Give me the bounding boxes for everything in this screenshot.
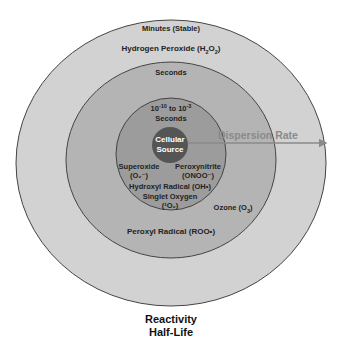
peroxynitrite-label: Peroxynitrite [175, 162, 221, 171]
core-label-line2: Source [156, 145, 183, 155]
singlet-oxygen-label: Singlet Oxygen [143, 192, 198, 201]
reactivity-caption: Reactivity [145, 313, 197, 326]
core-label-line1: Cellular [155, 135, 184, 145]
inner-timescale-line2: Seconds [155, 114, 186, 123]
ros-halflife-diagram: Minutes (Stable) Hydrogen Peroxide (H2O2… [0, 0, 342, 350]
ozone-label: Ozone (O3) [214, 203, 253, 212]
peroxyl-radical-label: Peroxyl Radical (ROO•) [127, 227, 215, 236]
hydroxyl-radical-label: Hydroxyl Radical (OH•) [129, 182, 211, 191]
middle-timescale-label: Seconds [155, 68, 186, 77]
inner-timescale-line1: 10-10 to 10-3 [151, 104, 192, 113]
peroxynitrite-formula: (ONOO⁻) [182, 171, 214, 180]
superoxide-label: Superoxide [119, 162, 160, 171]
outer-timescale-label: Minutes (Stable) [142, 24, 200, 33]
superoxide-formula: (O₂⁻) [130, 171, 148, 180]
dispersion-rate-label: Dispersion Rate [218, 129, 298, 141]
half-life-caption: Half-Life [149, 326, 193, 339]
singlet-oxygen-formula: (¹O₂) [162, 201, 179, 210]
hydrogen-peroxide-label: Hydrogen Peroxide (H2O2) [121, 44, 220, 53]
